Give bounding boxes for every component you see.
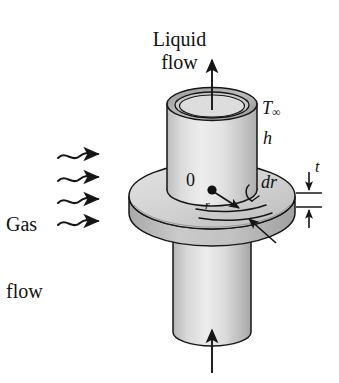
t-infinity-subscript: ∞: [272, 105, 280, 119]
t-infinity-symbol: T: [262, 98, 272, 118]
thickness-dimension-t: [296, 172, 322, 228]
origin-label: 0: [186, 170, 195, 190]
figure-canvas: Liquid flow Gas flow T∞ h t dr 0 r: [0, 0, 339, 383]
convection-coefficient-label: h: [263, 128, 272, 148]
gas-flow-arrow-1: [58, 153, 98, 158]
liquid-flow-label: Liquid flow: [0, 6, 339, 96]
dr-label: dr: [261, 172, 277, 192]
gas-flow-line1: Gas: [6, 213, 68, 235]
liquid-flow-line2: flow: [161, 51, 198, 73]
radius-label: r: [205, 199, 210, 212]
thickness-label: t: [315, 158, 319, 176]
liquid-flow-line1: Liquid: [153, 28, 206, 50]
gas-flow-label: Gas flow: [6, 168, 68, 347]
free-stream-temperature-label: T∞: [262, 98, 280, 120]
gas-flow-line2: flow: [6, 280, 68, 302]
